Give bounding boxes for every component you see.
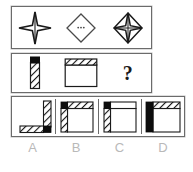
option-a-icon bbox=[16, 100, 52, 134]
option-label-c: C bbox=[98, 140, 142, 164]
problem-sequence-row: ? bbox=[11, 53, 152, 93]
option-d-icon bbox=[145, 101, 181, 133]
option-b-icon bbox=[60, 101, 94, 133]
option-label-d: D bbox=[142, 140, 186, 164]
sequence-cell-2 bbox=[58, 54, 104, 92]
sequence-cell-1 bbox=[12, 54, 58, 92]
option-c-cell[interactable] bbox=[98, 97, 141, 136]
shape-cell-3 bbox=[105, 7, 151, 48]
shape-cell-2 bbox=[58, 7, 104, 48]
sequence-cell-3: ? bbox=[105, 54, 151, 92]
option-b-cell[interactable] bbox=[55, 97, 98, 136]
question-mark-icon: ? bbox=[123, 63, 133, 83]
option-label-a: A bbox=[11, 140, 55, 164]
shape-sequence-row bbox=[11, 6, 152, 49]
option-a-cell[interactable] bbox=[12, 97, 55, 136]
shape-cell-1 bbox=[12, 7, 58, 48]
diamond-icon bbox=[65, 12, 97, 44]
option-labels: A B C D bbox=[11, 140, 185, 164]
option-d-cell[interactable] bbox=[141, 97, 184, 136]
visual-reasoning-puzzle: ? bbox=[0, 0, 193, 172]
hatched-vertical-bar-icon bbox=[29, 56, 41, 90]
square-with-hatched-top-icon bbox=[64, 58, 98, 88]
four-point-star-icon bbox=[18, 11, 52, 45]
option-label-b: B bbox=[55, 140, 99, 164]
answer-options-row bbox=[11, 96, 185, 137]
option-c-icon bbox=[103, 101, 137, 133]
diamond-with-star-icon bbox=[111, 11, 145, 45]
